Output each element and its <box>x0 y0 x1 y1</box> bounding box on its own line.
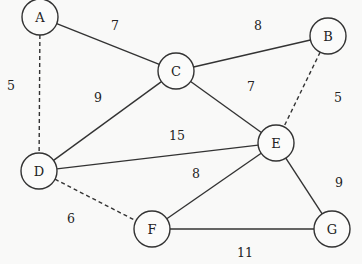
edge-e-g <box>286 158 322 214</box>
node-label: A <box>34 10 45 25</box>
node-f: F <box>134 211 170 247</box>
edge-weight-e-f: 8 <box>192 166 200 181</box>
edge-weight-d-f: 6 <box>67 211 75 226</box>
graph-diagram: 7587591586911 ABCDEFG <box>0 0 362 264</box>
node-d: D <box>21 153 57 189</box>
edge-weight-a-d: 5 <box>7 78 15 93</box>
node-label: D <box>34 164 44 179</box>
node-a: A <box>22 0 58 35</box>
edge-weight-f-g: 11 <box>237 245 253 260</box>
edge-weight-d-e: 15 <box>169 128 185 143</box>
node-c: C <box>158 53 194 89</box>
edge-c-d <box>54 82 162 161</box>
node-label: B <box>323 29 333 44</box>
edge-a-d <box>39 35 40 153</box>
graph-svg: 7587591586911 ABCDEFG <box>0 0 362 264</box>
node-e: E <box>258 125 294 161</box>
edge-weight-e-g: 9 <box>335 175 343 190</box>
node-label: E <box>271 136 281 151</box>
edge-e-f <box>167 153 261 218</box>
edge-weight-c-e: 7 <box>247 79 255 94</box>
node-label: C <box>171 64 181 79</box>
edge-weight-b-e: 5 <box>334 90 342 105</box>
edge-weight-c-d: 9 <box>94 90 102 105</box>
edge-weight-a-c: 7 <box>111 18 119 33</box>
edge-c-b <box>194 40 311 67</box>
node-b: B <box>310 18 346 54</box>
node-label: F <box>147 222 156 237</box>
edge-a-c <box>57 24 160 65</box>
node-label: G <box>327 222 337 237</box>
node-g: G <box>314 211 350 247</box>
edge-d-e <box>57 145 258 169</box>
edge-b-e <box>284 52 320 127</box>
edge-weight-c-b: 8 <box>254 18 262 33</box>
